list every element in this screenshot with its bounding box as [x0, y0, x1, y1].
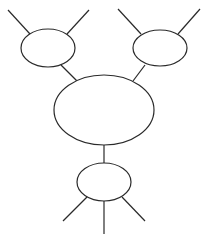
- edge-tr-to-center: [133, 65, 145, 81]
- diagram-nodes: [21, 29, 187, 201]
- edge-bottom-out-right: [122, 197, 145, 221]
- edge-tl-out-left: [8, 10, 30, 34]
- edge-tr-out-right: [178, 9, 200, 34]
- edge-bottom-out-left: [63, 197, 87, 221]
- node-center-ellipse: [54, 75, 154, 145]
- node-top-left-ellipse: [21, 29, 75, 67]
- tree-diagram: [0, 0, 211, 241]
- edge-tl-to-center: [61, 65, 77, 81]
- edge-tr-out-left: [118, 9, 141, 34]
- node-bottom-ellipse: [77, 163, 131, 201]
- edge-tl-out-right: [67, 10, 89, 34]
- node-top-right-ellipse: [133, 30, 187, 66]
